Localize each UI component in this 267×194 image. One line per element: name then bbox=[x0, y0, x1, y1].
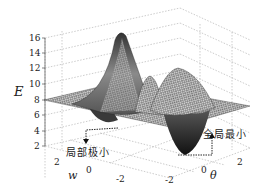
w-tick: -2 bbox=[116, 175, 125, 184]
theta-axis-label: θ bbox=[210, 169, 217, 182]
z-tick: 8 bbox=[34, 96, 40, 105]
z-tick: 14 bbox=[29, 49, 40, 58]
plot-canvas bbox=[0, 0, 267, 194]
z-tick: 2 bbox=[34, 142, 40, 151]
secondary-peak bbox=[150, 68, 215, 115]
z-tick: 16 bbox=[29, 34, 40, 43]
local-minimum-label: 局部极小 bbox=[66, 144, 110, 159]
theta-tick: 2 bbox=[237, 158, 243, 167]
surface-plot: 16 14 12 10 8 6 4 2 E 2 0 -2 w -2 0 2 θ … bbox=[0, 0, 267, 194]
w-tick: 2 bbox=[54, 158, 60, 167]
theta-tick: -2 bbox=[165, 176, 174, 185]
w-axis-label: w bbox=[68, 169, 77, 182]
global-minimum-label: 全局最小 bbox=[203, 126, 247, 141]
z-tick: 12 bbox=[29, 64, 40, 73]
z-axis bbox=[42, 38, 45, 146]
theta-tick: 0 bbox=[201, 166, 207, 175]
z-tick: 10 bbox=[29, 80, 40, 89]
z-tick: 6 bbox=[34, 111, 40, 120]
w-tick: 0 bbox=[86, 166, 92, 175]
z-tick: 4 bbox=[34, 127, 40, 136]
z-axis-label: E bbox=[14, 84, 24, 99]
